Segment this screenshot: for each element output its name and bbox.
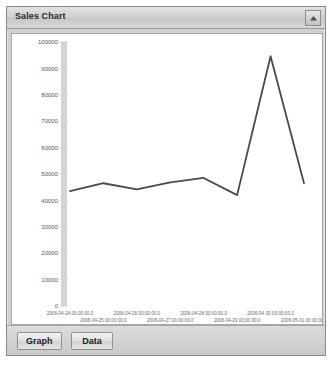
x-axis-tick-label: 2006-04-29 00:00:00.0 xyxy=(214,318,261,323)
y-axis-line xyxy=(61,42,67,306)
collapse-up-icon[interactable] xyxy=(305,10,321,26)
x-axis-tick-label: 2006-04-27 00:00:00.0 xyxy=(147,318,194,323)
x-axis-tick-label: 2006-04-24 00:00:00.0 xyxy=(47,311,94,316)
y-axis-tick-label: 40000 xyxy=(41,198,58,204)
x-axis-tick-label: 2006-05-01 00:00:00.0 xyxy=(281,318,322,323)
x-axis-tick-label: 2006-04-30 00:00:00.0 xyxy=(247,311,294,316)
y-axis-tick-label: 90000 xyxy=(41,66,58,72)
y-axis-tick-label: 100000 xyxy=(38,39,59,45)
y-axis-tick-label: 70000 xyxy=(41,118,58,124)
panel-title: Sales Chart xyxy=(15,11,66,21)
y-axis-tick-label: 80000 xyxy=(41,92,58,98)
sales-chart-panel: Sales Chart 0100002000030000400005000060… xyxy=(6,6,326,356)
y-axis-tick-label: 50000 xyxy=(41,171,58,177)
y-axis-tick-label: 60000 xyxy=(41,145,58,151)
panel-footer-toolbar: Graph Data xyxy=(7,325,325,355)
data-button[interactable]: Data xyxy=(71,332,113,350)
panel-titlebar: Sales Chart xyxy=(7,7,325,29)
chart-area: 0100002000030000400005000060000700008000… xyxy=(11,33,323,325)
x-axis-tick-label: 2006-04-28 00:00:00.0 xyxy=(180,311,227,316)
y-axis-tick-label: 20000 xyxy=(41,250,58,256)
y-axis-tick-label: 10000 xyxy=(41,277,58,283)
y-axis-tick-label: 30000 xyxy=(41,224,58,230)
x-axis-tick-label: 2006-04-26 00:00:00.0 xyxy=(114,311,161,316)
x-axis-tick-label: 2006-04-25 00:00:00.0 xyxy=(80,318,127,323)
sales-line-chart: 0100002000030000400005000060000700008000… xyxy=(12,34,322,324)
graph-button[interactable]: Graph xyxy=(17,332,62,350)
